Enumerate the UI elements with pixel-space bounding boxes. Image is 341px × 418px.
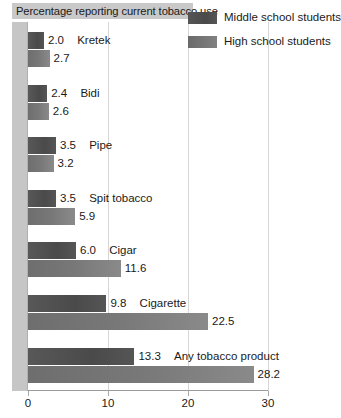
- legend-item-1: High school students: [188, 33, 324, 57]
- chart-legend: Middle school studentsHigh school studen…: [188, 9, 324, 57]
- bar-high-6: [28, 366, 254, 383]
- category-label-2: Pipe: [89, 139, 112, 151]
- legend-swatch-middle: [188, 12, 217, 24]
- value-label-high-1: 2.6: [53, 105, 69, 117]
- bar-middle-3: [28, 190, 56, 207]
- bar-middle-4: [28, 242, 76, 259]
- value-label-high-6: 28.2: [258, 368, 280, 380]
- bar-middle-6: [28, 348, 134, 365]
- value-label-middle-1: 2.4: [51, 87, 67, 99]
- x-tick-label-20: 20: [182, 397, 195, 409]
- value-label-middle-3: 3.5: [60, 192, 76, 204]
- x-tick-label-10: 10: [102, 397, 115, 409]
- value-label-high-0: 2.7: [54, 52, 70, 64]
- gridline-30: [268, 22, 269, 391]
- x-axis-line: [28, 390, 268, 391]
- value-label-middle-0: 2.0: [48, 34, 64, 46]
- category-label-3: Spit tobacco: [89, 192, 152, 204]
- category-label-6: Any tobacco product: [174, 350, 279, 362]
- value-label-middle-4: 6.0: [80, 244, 96, 256]
- bar-middle-0: [28, 32, 44, 49]
- value-label-middle-6: 13.3: [138, 350, 160, 362]
- category-label-5: Cigarette: [140, 297, 187, 309]
- x-tick-label-30: 30: [262, 397, 275, 409]
- value-label-high-4: 11.6: [125, 262, 147, 274]
- category-label-1: Bidi: [80, 87, 99, 99]
- x-tick-mark-0: [28, 391, 29, 396]
- gridline-20: [188, 22, 189, 391]
- bar-middle-5: [28, 295, 106, 312]
- bar-high-4: [28, 260, 121, 277]
- category-label-0: Kretek: [77, 34, 110, 46]
- x-tick-label-0: 0: [25, 397, 31, 409]
- value-label-high-2: 3.2: [58, 157, 74, 169]
- legend-item-0: Middle school students: [188, 9, 324, 33]
- x-tick-mark-20: [188, 391, 189, 396]
- plot-area: 0102030 2.0Kretek2.72.4Bidi2.63.5Pipe3.2…: [12, 22, 312, 391]
- bar-high-1: [28, 103, 49, 120]
- legend-label-1: High school students: [224, 33, 331, 49]
- gridline-10: [108, 22, 109, 391]
- chart-title: Percentage reporting current tobacco use: [12, 3, 193, 19]
- bar-high-2: [28, 155, 54, 172]
- value-label-middle-5: 9.8: [110, 297, 126, 309]
- bar-middle-2: [28, 137, 56, 154]
- x-tick-mark-10: [108, 391, 109, 396]
- x-tick-mark-30: [268, 391, 269, 396]
- bar-middle-1: [28, 85, 47, 102]
- legend-label-0: Middle school students: [224, 9, 341, 25]
- bar-high-0: [28, 50, 50, 67]
- bar-high-5: [28, 313, 208, 330]
- value-label-high-3: 5.9: [79, 210, 95, 222]
- value-label-middle-2: 3.5: [60, 139, 76, 151]
- bar-high-3: [28, 208, 75, 225]
- plot-left-margin-band: [12, 22, 28, 391]
- category-label-4: Cigar: [109, 244, 136, 256]
- legend-swatch-high: [188, 36, 217, 48]
- value-label-high-5: 22.5: [212, 315, 234, 327]
